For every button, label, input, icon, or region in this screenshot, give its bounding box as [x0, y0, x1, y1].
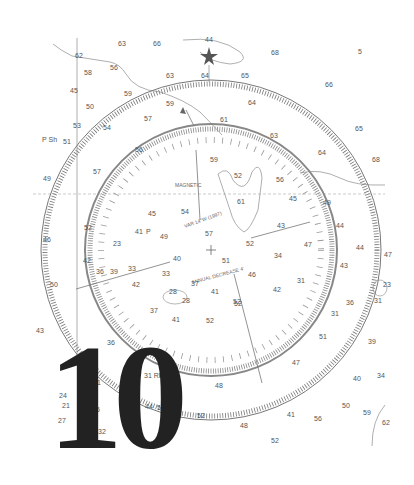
depth-sounding: 49 [43, 175, 51, 182]
depth-sounding: 59 [124, 90, 132, 97]
depth-sounding: 65 [355, 125, 363, 132]
depth-sounding: 41 [211, 288, 219, 295]
depth-sounding: 58 [84, 69, 92, 76]
depth-sounding: 62 [75, 52, 83, 59]
depth-sounding: 63 [166, 72, 174, 79]
depth-sounding: 48 [240, 422, 248, 429]
depth-sounding: 42 [273, 286, 281, 293]
depth-sounding: P [146, 228, 151, 235]
depth-sounding: 37 [150, 307, 158, 314]
depth-sounding: 33 [162, 270, 170, 277]
depth-sounding: 47 [384, 251, 392, 258]
variation-label: VAR 14°W (1997) [183, 210, 222, 229]
depth-sounding: 63 [270, 132, 278, 139]
depth-sounding: 28 [182, 297, 190, 304]
depth-sounding: 40 [353, 375, 361, 382]
depth-sounding: 51 [319, 333, 327, 340]
depth-sounding: 51 [63, 138, 71, 145]
depth-sounding: 57 [144, 115, 152, 122]
depth-sounding: 31 [374, 297, 382, 304]
depth-sounding: 56 [314, 415, 322, 422]
depth-sounding: 5 [358, 48, 362, 55]
depth-sounding: 41 [135, 228, 143, 235]
depth-sounding: 33 [128, 265, 136, 272]
depth-sounding: 63 [118, 40, 126, 47]
depth-sounding: 64 [318, 149, 326, 156]
depth-sounding: 44 [205, 36, 213, 43]
depth-sounding: 50 [342, 402, 350, 409]
depth-sounding: P Sh [42, 136, 57, 143]
depth-sounding: 49 [160, 233, 168, 240]
depth-sounding: 41 [287, 411, 295, 418]
depth-sounding: 44 [336, 222, 344, 229]
depth-sounding: 40 [173, 255, 181, 262]
depth-sounding: 52 [271, 437, 279, 444]
depth-sounding: 64 [201, 72, 209, 79]
depth-sounding: 43 [340, 262, 348, 269]
depth-sounding: 56 [135, 146, 143, 153]
depth-sounding: 43 [36, 327, 44, 334]
depth-sounding: 62 [382, 419, 390, 426]
depth-sounding: 45 [70, 87, 78, 94]
depth-sounding: 59 [363, 409, 371, 416]
depth-sounding: 48 [215, 382, 223, 389]
depth-sounding: 39 [368, 338, 376, 345]
depth-sounding: 68 [271, 49, 279, 56]
nautical-chart: MAGNETIC VAR 14°W (1997) ANNUAL DECREASE… [0, 0, 414, 485]
depth-sounding: 31 [297, 277, 305, 284]
depth-sounding: 47 [292, 359, 300, 366]
depth-sounding: 45 [148, 210, 156, 217]
depth-sounding: 49 [323, 199, 331, 206]
depth-sounding: 51 [222, 257, 230, 264]
depth-sounding: 36 [346, 299, 354, 306]
depth-sounding: 66 [153, 40, 161, 47]
depth-sounding: 52 [84, 224, 92, 231]
depth-sounding: 56 [276, 176, 284, 183]
depth-sounding: 59 [210, 156, 218, 163]
depth-sounding: 64 [248, 99, 256, 106]
depth-sounding: 31 [331, 310, 339, 317]
depth-sounding: 52 [234, 172, 242, 179]
depth-sounding: 56 [110, 64, 118, 71]
depth-sounding: 52 [197, 412, 205, 419]
depth-sounding: 66 [325, 81, 333, 88]
depth-sounding: 52 [246, 240, 254, 247]
depth-sounding: 39 [110, 268, 118, 275]
depth-sounding: 43 [277, 222, 285, 229]
depth-sounding: 59 [166, 100, 174, 107]
depth-sounding: 42 [83, 257, 91, 264]
depth-sounding: 61 [237, 198, 245, 205]
depth-sounding: 50 [50, 281, 58, 288]
depth-sounding: 53 [73, 122, 81, 129]
depth-sounding: 50 [86, 103, 94, 110]
depth-sounding: 28 [169, 288, 177, 295]
depth-sounding: 47 [304, 241, 312, 248]
depth-sounding: 34 [377, 372, 385, 379]
star-icon [200, 47, 218, 65]
depth-sounding: 44 [356, 244, 364, 251]
depth-sounding: 54 [181, 208, 189, 215]
depth-sounding: 45 [289, 195, 297, 202]
depth-sounding: 54 [103, 124, 111, 131]
depth-sounding: 23 [113, 240, 121, 247]
overlay-number: 10 [48, 314, 183, 480]
depth-contour [183, 39, 243, 64]
depth-sounding: 57 [93, 168, 101, 175]
depth-sounding: 46 [43, 236, 51, 243]
magnetic-label: MAGNETIC [175, 182, 202, 188]
depth-sounding: 46 [248, 271, 256, 278]
depth-sounding: 65 [241, 72, 249, 79]
depth-sounding: 34 [274, 252, 282, 259]
depth-sounding: 37 [191, 280, 199, 287]
depth-sounding: 52 [234, 300, 242, 307]
depth-sounding: 36 [96, 268, 104, 275]
depth-sounding: 52 [206, 317, 214, 324]
depth-sounding: 42 [132, 281, 140, 288]
depth-sounding: 57 [205, 230, 213, 237]
depth-sounding: 68 [372, 156, 380, 163]
depth-sounding: 61 [220, 116, 228, 123]
depth-sounding: 23 [383, 281, 391, 288]
